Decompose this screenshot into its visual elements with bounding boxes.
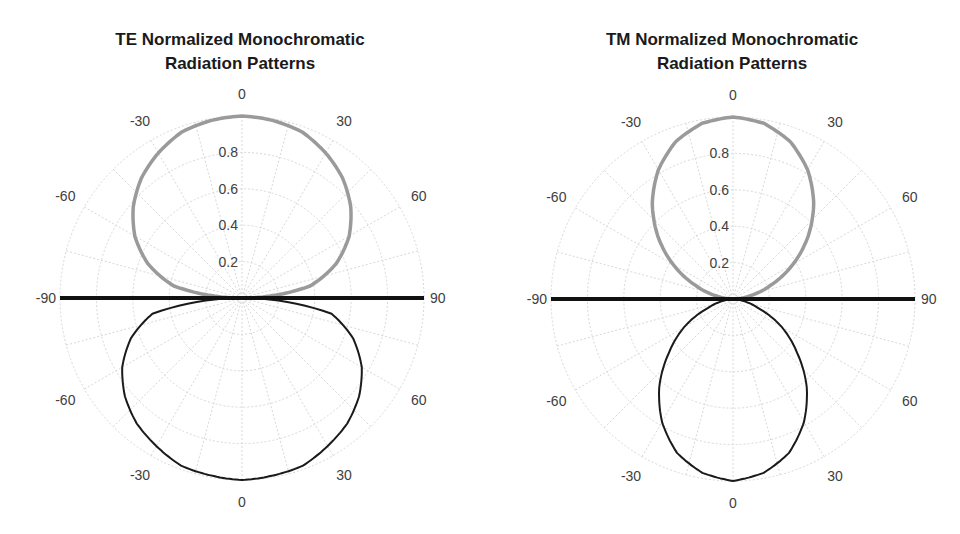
grid-spoke [686, 299, 733, 475]
radial-tick-label: 0.6 [219, 181, 239, 197]
grid-spoke [242, 298, 289, 474]
angle-label: 0 [238, 86, 246, 102]
grid-spoke [242, 169, 371, 298]
angle-label: 90 [430, 290, 446, 306]
angle-label: -60 [55, 188, 75, 204]
angle-label: 0 [729, 87, 737, 103]
grid-spoke [113, 298, 242, 427]
grid-spoke [195, 298, 242, 474]
polar-chart-1: 0.20.40.60.8-90-60-300306090-60-3003060 [527, 87, 937, 511]
grid-spoke [733, 299, 891, 390]
grid-spoke [733, 299, 780, 475]
angle-label: -90 [527, 291, 547, 307]
polar-plots: 0.20.40.60.8-90-60-300306090-60-30030600… [0, 0, 960, 534]
grid-spoke [242, 298, 418, 345]
angle-label: 90 [921, 291, 937, 307]
angle-label: 0 [729, 495, 737, 511]
grid-spoke [733, 123, 780, 299]
angle-label: -90 [36, 290, 56, 306]
grid-spoke [242, 207, 400, 298]
angle-label: 60 [411, 188, 427, 204]
grid-spoke [557, 299, 733, 346]
angle-label: 60 [411, 392, 427, 408]
angle-label: 60 [902, 393, 918, 409]
grid-spoke [242, 122, 289, 298]
angle-label: -30 [621, 114, 641, 130]
grid-spoke [242, 140, 333, 298]
radial-tick-label: 0.4 [710, 218, 730, 234]
grid-spoke [66, 251, 242, 298]
angle-label: 0 [238, 494, 246, 510]
grid-spoke [242, 298, 400, 389]
radial-tick-label: 0.8 [219, 144, 239, 160]
radial-tick-label: 0.6 [710, 182, 730, 198]
grid-spoke [84, 298, 242, 389]
upper-lobe [133, 116, 351, 298]
angle-label: 30 [336, 113, 352, 129]
angle-label: -60 [546, 393, 566, 409]
angle-label: 30 [336, 467, 352, 483]
angle-label: -30 [130, 467, 150, 483]
grid-spoke [575, 299, 733, 390]
grid-spoke [242, 298, 371, 427]
grid-spoke [733, 170, 862, 299]
angle-label: 30 [827, 114, 843, 130]
grid-spoke [242, 251, 418, 298]
angle-label: -30 [130, 113, 150, 129]
grid-spoke [604, 299, 733, 428]
radial-tick-label: 0.8 [710, 145, 730, 161]
grid-spoke [733, 299, 909, 346]
polar-chart-0: 0.20.40.60.8-90-60-300306090-60-3003060 [36, 86, 446, 510]
grid-spoke [66, 298, 242, 345]
grid-spoke [242, 298, 333, 456]
grid-spoke [151, 298, 242, 456]
lower-lobe [122, 298, 362, 480]
angle-label: -60 [546, 189, 566, 205]
upper-lobe [652, 117, 813, 299]
angle-label: 60 [902, 189, 918, 205]
angle-label: 30 [827, 468, 843, 484]
radial-tick-label: 0.2 [710, 255, 730, 271]
angle-label: -60 [55, 392, 75, 408]
radial-tick-label: 0.4 [219, 217, 239, 233]
radial-tick-label: 0.2 [219, 254, 239, 270]
grid-spoke [733, 299, 862, 428]
angle-label: -30 [621, 468, 641, 484]
lower-lobe [659, 299, 807, 481]
